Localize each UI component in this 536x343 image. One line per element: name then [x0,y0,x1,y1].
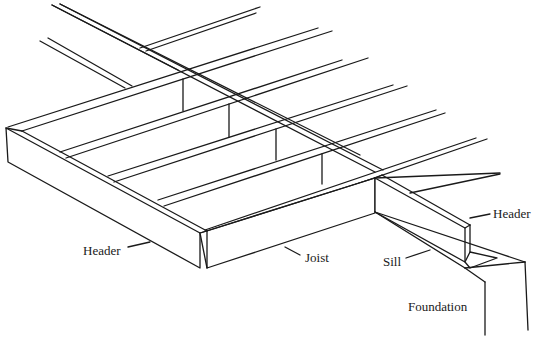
label-foundation: Foundation [408,299,468,314]
sill-leader [406,250,430,258]
label-header-left: Header [83,243,121,258]
header-right-leader [470,214,490,218]
joist-leader [285,247,300,255]
blocking [183,79,322,184]
label-header-right: Header [493,206,531,221]
right-header [375,175,470,262]
label-sill: Sill [383,254,401,269]
floor-framing-diagram: Header Joist Sill Header Foundation [0,0,536,343]
label-joist: Joist [305,250,329,265]
header-left-leader [128,242,150,247]
rear-joists [40,4,360,155]
